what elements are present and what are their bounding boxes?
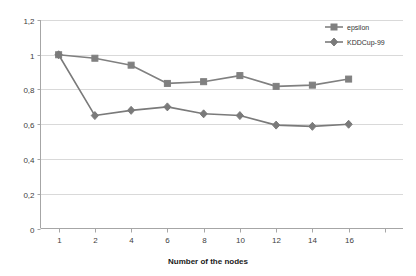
y-tick-label: 0,2 <box>23 191 35 200</box>
x-tick-label: 10 <box>236 236 245 245</box>
legend-item-kddcup-99[interactable]: KDDCup-99 <box>325 38 385 47</box>
data-point-marker <box>164 80 170 86</box>
legend-label: KDDCup-99 <box>347 39 385 47</box>
data-point-marker <box>237 73 243 79</box>
data-point-marker <box>128 62 134 68</box>
legend-marker-square-icon <box>331 24 337 30</box>
x-tick-label: 6 <box>165 236 170 245</box>
legend-label: epsilon <box>347 24 369 32</box>
x-tick-label: 12 <box>272 236 281 245</box>
x-tick-label: 16 <box>345 236 354 245</box>
y-tick-label: 1,2 <box>23 17 35 26</box>
data-point-marker <box>92 55 98 61</box>
y-tick-label: 0 <box>30 226 35 235</box>
data-point-marker <box>273 83 279 89</box>
x-tick-label: 2 <box>93 236 98 245</box>
y-tick-label: 1 <box>30 52 35 61</box>
x-axis-title: Number of the nodes <box>168 257 249 266</box>
y-tick-label: 0,6 <box>23 121 35 130</box>
line-chart: 00,20,40,60,811,2 1246810121416 epsilonK… <box>0 0 416 276</box>
data-point-marker <box>346 76 352 82</box>
x-tick-label: 8 <box>202 236 207 245</box>
y-tick-label: 0,4 <box>23 156 35 165</box>
x-tick-label: 1 <box>57 236 62 245</box>
data-point-marker <box>201 79 207 85</box>
x-tick-label: 14 <box>308 236 317 245</box>
chart-canvas: 00,20,40,60,811,2 1246810121416 epsilonK… <box>0 0 416 276</box>
data-point-marker <box>309 82 315 88</box>
y-tick-label: 0,8 <box>23 86 35 95</box>
x-tick-label: 4 <box>129 236 134 245</box>
